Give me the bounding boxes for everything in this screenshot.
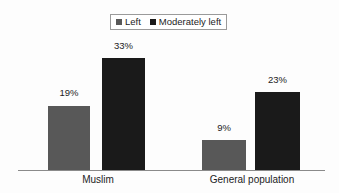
bar-value-general-population-moderately-left: 23%	[255, 75, 300, 85]
bar-value-muslim-moderately-left: 33%	[102, 41, 145, 51]
x-axis-label-muslim: Muslim	[58, 175, 138, 185]
plot-area: 19% 33% 9% 23% Muslim General population	[0, 0, 339, 193]
bar-muslim-moderately-left	[102, 58, 145, 170]
bar-chart: Left Moderately left 19% 33% 9% 23% Musl…	[0, 0, 339, 193]
x-axis-baseline	[18, 170, 325, 171]
bar-general-population-moderately-left	[255, 92, 300, 170]
bar-value-muslim-left: 19%	[48, 88, 90, 98]
bar-value-general-population-left: 9%	[202, 123, 246, 133]
bar-muslim-left	[48, 106, 90, 170]
bar-general-population-left	[202, 140, 246, 170]
x-axis-label-general-population: General population	[196, 175, 308, 185]
